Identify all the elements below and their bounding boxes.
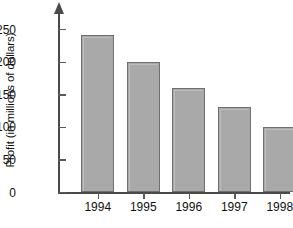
bar-1995 [127,62,160,193]
x-tick-mark [280,193,281,199]
x-tick-mark [98,193,99,199]
y-tick-mark [58,94,66,95]
y-tick-mark [58,29,66,30]
bar-chart: Profit (in millions of dollars) 05010015… [0,0,293,228]
bar-highlight [83,37,111,191]
x-tick-label-1994: 1994 [84,200,111,214]
x-tick-label-1995: 1995 [130,200,157,214]
bar-1998 [263,127,293,192]
x-axis-line [58,192,290,194]
bar-highlight [129,64,157,192]
y-axis-line [58,12,60,193]
x-tick-mark [143,193,144,199]
bar-1997 [218,107,251,192]
bar-1996 [172,88,205,192]
bar-highlight [265,129,293,191]
bar-1994 [81,35,114,192]
x-tick-mark [189,193,190,199]
x-tick-mark [234,193,235,199]
y-tick-mark [58,62,66,63]
y-axis-arrow-icon [54,2,64,14]
y-tick-label: 250 [0,23,16,37]
y-tick-label: 0 [9,186,16,200]
y-tick-label: 50 [3,153,16,167]
x-tick-label-1998: 1998 [266,200,293,214]
y-tick-mark [58,127,66,128]
y-tick-mark [58,192,66,193]
plot-area: 050100150200250 19941995199619971998 [20,0,293,228]
x-tick-label-1997: 1997 [221,200,248,214]
y-tick-label: 200 [0,55,16,69]
y-tick-mark [58,159,66,160]
bar-highlight [220,109,248,191]
x-tick-label-1996: 1996 [175,200,202,214]
y-tick-label: 100 [0,120,16,134]
bar-highlight [174,90,202,191]
y-tick-label: 150 [0,88,16,102]
